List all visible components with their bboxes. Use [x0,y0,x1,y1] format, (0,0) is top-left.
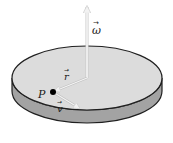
omega-arrow-accent: → [93,19,99,27]
rotating-disk-diagram: ω → r → v → P [0,0,173,143]
point-p-label: P [37,88,46,101]
point-p-marker [50,89,56,95]
radius-arrow-accent: → [64,66,69,73]
velocity-arrow-accent: → [57,98,62,105]
